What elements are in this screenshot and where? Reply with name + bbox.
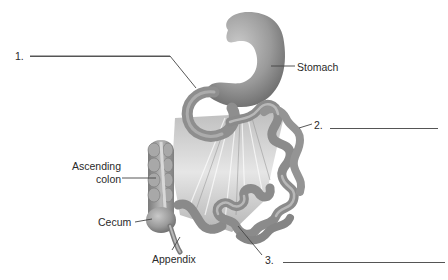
label-ascending-colon-line1: Ascending (72, 160, 122, 172)
label-cecum: Cecum (98, 216, 131, 228)
anatomy-diagram: 1. 2. 3. Stomach Ascending colon Cecum A… (0, 0, 448, 280)
digestive-organs-illustration (0, 0, 448, 280)
label-stomach: Stomach (297, 61, 338, 73)
blank-1-number: 1. (15, 50, 24, 62)
leader-line-1 (30, 56, 196, 88)
blank-2-answer-line[interactable] (330, 128, 438, 129)
blank-2-number: 2. (314, 119, 323, 131)
blank-1-answer-line[interactable] (30, 56, 170, 57)
label-appendix: Appendix (152, 253, 196, 265)
blank-3-number: 3. (265, 254, 274, 266)
label-ascending-colon-line2: colon (96, 173, 121, 185)
blank-3-answer-line[interactable] (283, 262, 445, 263)
leader-line-2 (299, 124, 312, 128)
